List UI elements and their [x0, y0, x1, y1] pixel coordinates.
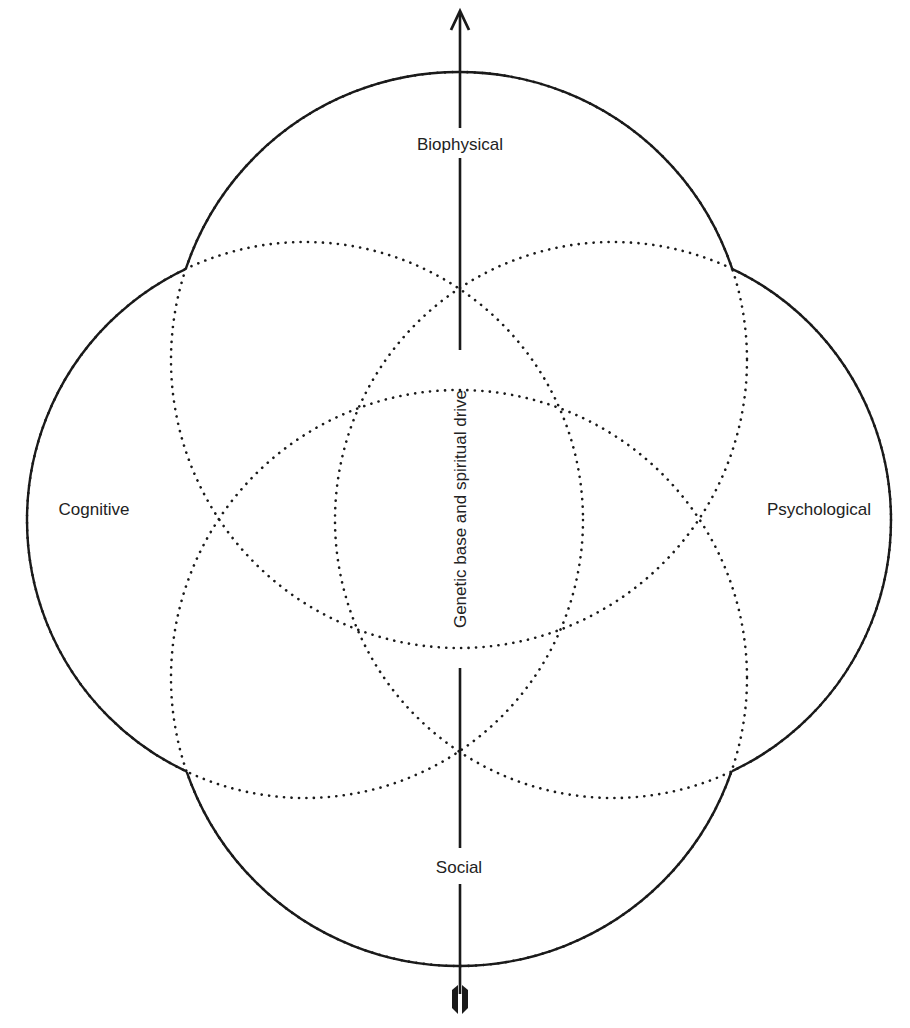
label-psychological: Psychological	[767, 500, 871, 519]
label-axis: Genetic base and spiritual drive	[451, 390, 470, 628]
label-cognitive: Cognitive	[59, 500, 130, 519]
label-social: Social	[436, 858, 482, 877]
holistic-model-diagram: Biophysical Cognitive Psychological Soci…	[0, 0, 910, 1028]
label-biophysical: Biophysical	[417, 135, 503, 154]
